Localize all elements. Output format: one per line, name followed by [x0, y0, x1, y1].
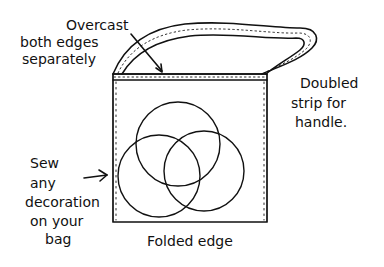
folded-edge-label: Folded edge — [147, 233, 233, 249]
svg-text:Overcast: Overcast — [66, 17, 129, 33]
svg-text:both edges: both edges — [20, 34, 99, 50]
handle-label: Doubled strip for handle. — [291, 75, 359, 130]
svg-text:handle.: handle. — [295, 114, 347, 130]
svg-text:strip for: strip for — [291, 95, 346, 111]
svg-text:separately: separately — [22, 51, 96, 67]
decoration-arrow-icon — [84, 170, 107, 181]
svg-text:decoration: decoration — [25, 194, 100, 210]
bag-diagram: Overcast both edges separately Doubled s… — [0, 0, 384, 267]
decoration-circles — [118, 102, 244, 217]
svg-text:Sew: Sew — [30, 155, 59, 171]
svg-text:any: any — [30, 175, 56, 191]
svg-text:Doubled: Doubled — [300, 75, 359, 91]
top-hem — [113, 74, 267, 80]
decoration-label: Sew any decoration on your bag — [25, 155, 100, 247]
overcast-arrow-icon — [131, 34, 162, 72]
svg-text:bag: bag — [45, 231, 71, 247]
overcast-label: Overcast both edges separately — [20, 17, 129, 67]
svg-text:on your: on your — [30, 213, 84, 229]
